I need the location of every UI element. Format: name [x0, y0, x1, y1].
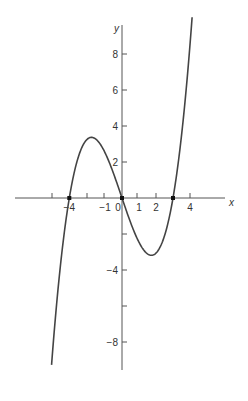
y-tick-label: −4 — [107, 265, 119, 276]
y-tick-label: 2 — [112, 157, 118, 168]
y-tick-label: 6 — [112, 85, 118, 96]
root-marker — [120, 196, 124, 200]
function-graph: x y −4−10124 8642−4−8 — [0, 0, 248, 401]
x-tick-label: 1 — [136, 202, 142, 213]
y-tick-label: 8 — [112, 49, 118, 60]
root-marker — [67, 196, 71, 200]
x-tick-label: 2 — [153, 202, 159, 213]
x-axis-label: x — [228, 197, 235, 208]
axes: x y — [15, 23, 235, 370]
x-tick-label: 4 — [187, 202, 193, 213]
y-tick-label: 4 — [112, 121, 118, 132]
root-marker — [171, 196, 175, 200]
x-tick-label: −1 — [99, 202, 111, 213]
x-tick-label: −4 — [64, 202, 76, 213]
y-tick-label: −8 — [107, 337, 119, 348]
y-axis-label: y — [113, 23, 120, 34]
x-tick-label: 0 — [115, 202, 121, 213]
